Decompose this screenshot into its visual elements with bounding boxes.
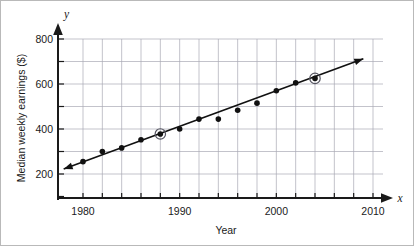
y-axis-variable-label: y bbox=[63, 8, 70, 21]
x-tick-label: 2010 bbox=[361, 205, 385, 217]
data-point bbox=[235, 108, 241, 114]
y-axis-tick-labels: 200400600800 bbox=[35, 33, 53, 180]
data-point bbox=[254, 100, 260, 106]
data-point bbox=[177, 126, 183, 132]
data-point bbox=[293, 80, 299, 86]
data-point bbox=[216, 116, 222, 122]
x-axis-arrowhead bbox=[381, 193, 393, 203]
trend-line-segment bbox=[64, 59, 364, 169]
data-point bbox=[119, 145, 125, 151]
data-point bbox=[196, 116, 202, 122]
chart-figure: 1980199020002010 200400600800 y x Year M… bbox=[0, 0, 414, 246]
y-tick-label: 200 bbox=[35, 168, 53, 180]
axes-group bbox=[53, 23, 393, 203]
x-tick-label: 1980 bbox=[71, 205, 95, 217]
data-point bbox=[100, 149, 106, 155]
y-axis-arrowhead bbox=[53, 23, 63, 35]
data-point bbox=[80, 159, 86, 165]
y-tick-label: 400 bbox=[35, 123, 53, 135]
scatter-plot-svg: 1980199020002010 200400600800 y x Year M… bbox=[1, 1, 414, 246]
y-axis-title: Median weekly earnings ($) bbox=[15, 54, 27, 182]
data-point bbox=[312, 76, 318, 82]
x-axis-tick-labels: 1980199020002010 bbox=[71, 205, 385, 217]
line-of-best-fit bbox=[64, 59, 364, 169]
data-point bbox=[274, 88, 280, 94]
x-tick-label: 2000 bbox=[265, 205, 289, 217]
x-tick-label: 1990 bbox=[168, 205, 192, 217]
x-axis-variable-label: x bbox=[396, 192, 403, 204]
x-axis-title: Year bbox=[215, 224, 237, 236]
y-tick-label: 600 bbox=[35, 78, 53, 90]
data-point bbox=[138, 137, 144, 143]
trend-line-arrow-right bbox=[354, 59, 364, 65]
y-tick-label: 800 bbox=[35, 33, 53, 45]
data-point bbox=[158, 131, 164, 137]
trend-line-arrow-left bbox=[64, 163, 74, 169]
